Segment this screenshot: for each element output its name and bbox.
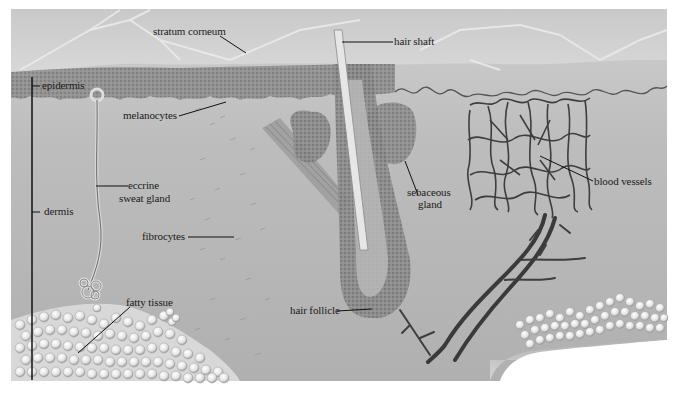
label-stratum-corneum: stratum corneum bbox=[153, 26, 226, 38]
label-melanocytes: melanocytes bbox=[123, 110, 177, 122]
illustration-panel bbox=[11, 9, 668, 383]
label-eccrine: eccrine bbox=[128, 180, 159, 192]
skin-diagram: stratum corneum hair shaft epidermis mel… bbox=[0, 0, 677, 396]
label-sebaceous: sebaceous bbox=[407, 187, 451, 199]
label-sweat-gland: sweat gland bbox=[119, 193, 170, 205]
label-fatty-tissue: fatty tissue bbox=[126, 297, 173, 309]
label-hair-follicle: hair follicle bbox=[290, 305, 340, 317]
label-blood-vessels: blood vessels bbox=[594, 176, 652, 188]
label-fibrocytes: fibrocytes bbox=[142, 231, 185, 243]
label-sebaceous-gland: gland bbox=[418, 199, 442, 211]
label-hair-shaft: hair shaft bbox=[394, 36, 434, 48]
label-epidermis: epidermis bbox=[42, 80, 84, 92]
label-dermis: dermis bbox=[44, 206, 73, 218]
